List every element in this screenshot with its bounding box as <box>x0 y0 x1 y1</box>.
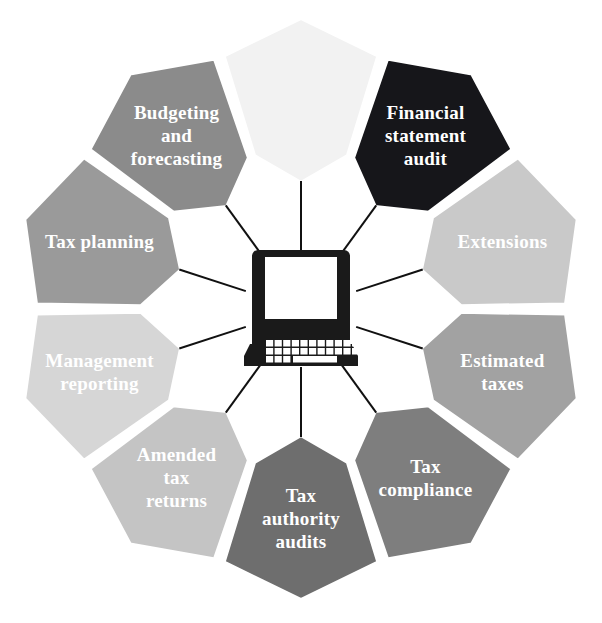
keyboard-key <box>352 348 359 355</box>
keyboard-key <box>292 340 299 347</box>
keyboard-key <box>335 340 342 347</box>
keyboard-key <box>335 348 342 355</box>
segment-label-extensions: Extensions <box>458 231 548 252</box>
keyboard-key <box>309 348 316 355</box>
keyboard-key <box>318 348 325 355</box>
keyboard-key <box>266 348 273 355</box>
keyboard-key <box>283 356 290 363</box>
keyboard-key <box>266 340 273 347</box>
laptop-icon <box>244 250 359 366</box>
keyboard-key <box>283 340 290 347</box>
keyboard-key <box>300 340 307 347</box>
keyboard-key <box>318 340 325 347</box>
keyboard-spacebar <box>293 356 337 363</box>
keyboard-key <box>283 348 290 355</box>
keyboard-key <box>343 340 350 347</box>
keyboard-key <box>266 356 273 363</box>
keyboard-key <box>343 348 350 355</box>
keyboard-key <box>275 348 282 355</box>
keyboard-key <box>300 348 307 355</box>
keyboard-key <box>292 348 299 355</box>
keyboard-key <box>309 340 316 347</box>
keyboard-key <box>326 340 333 347</box>
keyboard-key <box>352 340 359 347</box>
diagram-root: FinancialstatementauditExtensionsEstimat… <box>0 0 602 623</box>
keyboard-key <box>275 340 282 347</box>
keyboard-key <box>275 356 282 363</box>
wheel-diagram: FinancialstatementauditExtensionsEstimat… <box>0 0 602 623</box>
segment-label-tax-planning: Tax planning <box>45 231 154 252</box>
keyboard-key <box>326 348 333 355</box>
